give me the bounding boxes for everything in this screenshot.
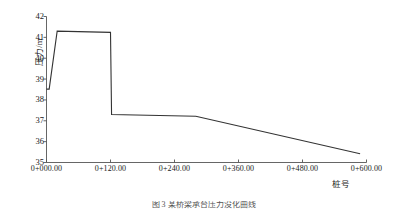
chart-figure: 压力/m 3536373839404142 0+000.000+120.000+… xyxy=(0,0,407,210)
figure-caption: 图 3 某桥梁承台压力没化曲线 xyxy=(0,201,407,210)
x-axis-tick-label: 0+000.00 xyxy=(31,165,62,173)
x-axis-tick-label: 0+600.00 xyxy=(351,165,382,173)
x-axis-tick-label: 0+360.00 xyxy=(223,165,254,173)
x-axis-title: 桩号 xyxy=(332,180,350,189)
x-axis-tick-label: 0+120.00 xyxy=(95,165,126,173)
x-axis-tick-label: 0+480.00 xyxy=(287,165,318,173)
x-axis-tick-label: 0+240.00 xyxy=(159,165,190,173)
